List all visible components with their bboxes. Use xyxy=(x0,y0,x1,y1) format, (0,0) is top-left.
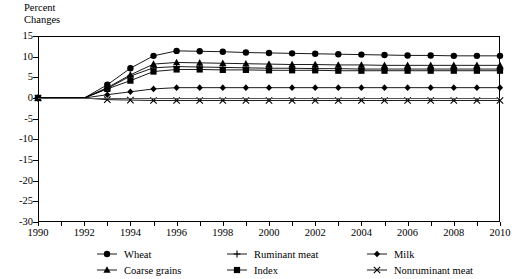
data-point-diamond xyxy=(220,84,226,91)
data-point-square xyxy=(104,86,110,92)
x-tick xyxy=(107,222,108,226)
data-point-circle xyxy=(197,48,203,54)
x-tick-label: 1998 xyxy=(203,228,243,239)
x-tick-label: 1990 xyxy=(18,228,58,239)
x-tick-label: 2010 xyxy=(480,228,520,239)
data-point-circle xyxy=(220,49,226,55)
x-tick xyxy=(200,222,201,226)
square-marker-icon xyxy=(225,264,249,276)
data-point-square xyxy=(289,67,295,73)
legend-label: Ruminant meat xyxy=(254,249,318,260)
x-tick xyxy=(454,222,455,226)
x-tick-label: 2002 xyxy=(295,228,335,239)
x-tick-label: 2004 xyxy=(341,228,381,239)
zero-line xyxy=(38,98,500,99)
x-tick-label: 2000 xyxy=(249,228,289,239)
y-tick-label: -30 xyxy=(5,217,33,228)
y-tick-label: -10 xyxy=(5,134,33,145)
legend-item-ruminant-meat[interactable]: Ruminant meat xyxy=(225,248,365,260)
data-point-diamond xyxy=(243,84,249,91)
data-point-circle xyxy=(428,52,434,58)
y-tick-label: 5 xyxy=(5,72,33,83)
data-point-diamond xyxy=(474,84,480,91)
x-tick-label: 1996 xyxy=(157,228,197,239)
data-point-square xyxy=(497,68,503,74)
y-tick-label: -15 xyxy=(5,155,33,166)
x-tick xyxy=(431,222,432,226)
x-tick xyxy=(84,222,85,226)
legend-label: Nonruminant meat xyxy=(394,265,473,276)
series-nonruminant-meat xyxy=(35,95,503,104)
x-tick-label: 2006 xyxy=(388,228,428,239)
data-point-diamond xyxy=(358,84,364,91)
data-point-square xyxy=(234,267,240,273)
data-point-circle xyxy=(474,53,480,59)
data-point-square xyxy=(358,68,364,74)
data-point-square xyxy=(266,67,272,73)
x-tick xyxy=(477,222,478,226)
data-point-diamond xyxy=(150,86,156,93)
data-point-diamond xyxy=(127,89,133,96)
data-point-diamond xyxy=(381,84,387,91)
y-axis-title: Percent Changes xyxy=(24,2,60,25)
y-tick-label: 0 xyxy=(5,93,33,104)
data-point-circle xyxy=(104,251,110,257)
data-point-diamond xyxy=(197,84,203,91)
data-point-diamond xyxy=(174,84,180,91)
x-tick xyxy=(500,222,501,226)
data-point-diamond xyxy=(405,84,411,91)
cross-marker-icon xyxy=(365,264,389,276)
x-tick xyxy=(361,222,362,226)
data-point-square xyxy=(335,68,341,74)
legend-label: Wheat xyxy=(124,249,151,260)
series-layer xyxy=(38,36,500,222)
legend-label: Milk xyxy=(394,249,414,260)
circle-marker-icon xyxy=(95,248,119,260)
legend-item-wheat[interactable]: Wheat xyxy=(95,248,225,260)
chart-root: Percent Changes 151050-5-10-15-20-25-30 … xyxy=(0,0,522,279)
data-point-circle xyxy=(173,48,179,54)
chart-legend: WheatRuminant meatMilkCoarse grainsIndex… xyxy=(95,246,495,278)
data-point-circle xyxy=(451,53,457,59)
data-point-square xyxy=(174,66,180,72)
x-tick xyxy=(246,222,247,226)
data-point-circle xyxy=(289,50,295,56)
y-tick-label: 15 xyxy=(5,31,33,42)
diamond-marker-icon xyxy=(365,248,389,260)
legend-item-milk[interactable]: Milk xyxy=(365,248,515,260)
x-tick xyxy=(385,222,386,226)
x-tick xyxy=(61,222,62,226)
data-point-circle xyxy=(243,49,249,55)
y-tick-label: -20 xyxy=(5,176,33,187)
data-point-square xyxy=(474,68,480,74)
data-point-square xyxy=(243,67,249,73)
x-tick xyxy=(269,222,270,226)
x-tick xyxy=(177,222,178,226)
data-point-diamond xyxy=(266,84,272,91)
triangle-marker-icon xyxy=(95,264,119,276)
series-wheat xyxy=(35,48,503,102)
data-point-circle xyxy=(404,52,410,58)
data-point-square xyxy=(405,68,411,74)
legend-label: Coarse grains xyxy=(124,265,181,276)
y-tick-label: -25 xyxy=(5,196,33,207)
legend-item-coarse-grains[interactable]: Coarse grains xyxy=(95,264,225,276)
data-point-circle xyxy=(266,50,272,56)
data-point-diamond xyxy=(335,84,341,91)
data-point-square xyxy=(150,68,156,74)
x-tick-label: 1994 xyxy=(110,228,150,239)
data-point-square xyxy=(428,68,434,74)
data-point-circle xyxy=(312,51,318,57)
data-point-square xyxy=(127,78,133,84)
data-point-square xyxy=(312,67,318,73)
legend-item-nonruminant-meat[interactable]: Nonruminant meat xyxy=(365,264,515,276)
legend-item-index[interactable]: Index xyxy=(225,264,365,276)
data-point-square xyxy=(197,66,203,72)
data-point-diamond xyxy=(428,84,434,91)
x-tick xyxy=(130,222,131,226)
y-tick-label: 10 xyxy=(5,52,33,63)
legend-label: Index xyxy=(254,265,278,276)
x-tick xyxy=(154,222,155,226)
data-point-circle xyxy=(497,53,503,59)
data-point-square xyxy=(220,67,226,73)
